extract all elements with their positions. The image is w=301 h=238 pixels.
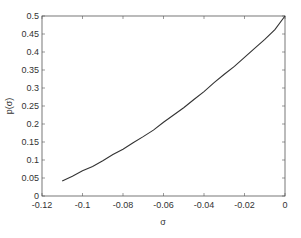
line-chart: -0.12-0.1-0.08-0.06-0.04-0.02000.050.10.…: [0, 0, 301, 238]
x-axis-label: σ: [160, 217, 166, 227]
y-axis-label: p(σ): [4, 98, 14, 115]
y-tick-label: 0.5: [26, 11, 39, 21]
plot-axes: -0.12-0.1-0.08-0.06-0.04-0.02000.050.10.…: [21, 11, 287, 210]
y-tick-label: 0.1: [26, 155, 39, 165]
x-tick-label: -0.08: [113, 200, 134, 210]
x-tick-label: -0.02: [234, 200, 255, 210]
y-tick-label: 0.15: [21, 137, 39, 147]
plot-frame: [42, 16, 285, 196]
x-tick-label: -0.12: [32, 200, 53, 210]
y-tick-label: 0.4: [26, 47, 39, 57]
y-tick-label: 0: [34, 191, 39, 201]
y-tick-label: 0.3: [26, 83, 39, 93]
y-tick-label: 0.45: [21, 29, 39, 39]
x-tick-label: -0.04: [194, 200, 215, 210]
data-line: [62, 16, 285, 181]
x-tick-label: -0.1: [75, 200, 91, 210]
y-tick-label: 0.25: [21, 101, 39, 111]
y-tick-label: 0.05: [21, 173, 39, 183]
x-tick-label: 0: [282, 200, 287, 210]
x-tick-label: -0.06: [153, 200, 174, 210]
y-tick-label: 0.2: [26, 119, 39, 129]
y-tick-label: 0.35: [21, 65, 39, 75]
